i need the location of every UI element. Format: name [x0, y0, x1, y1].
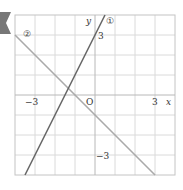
y-axis-label: y	[85, 16, 92, 26]
coordinate-graph: y ① ② 3 −3 O 3 x −3	[0, 0, 183, 190]
y-tick-neg3: −3	[96, 151, 110, 161]
line-2-label: ②	[23, 29, 31, 39]
line-1-label: ①	[106, 16, 114, 26]
x-tick-neg3: −3	[25, 97, 39, 107]
x-tick-3: 3	[152, 97, 158, 107]
origin-label: O	[86, 97, 93, 107]
y-tick-3: 3	[98, 31, 104, 41]
x-axis-label: x	[166, 97, 171, 107]
